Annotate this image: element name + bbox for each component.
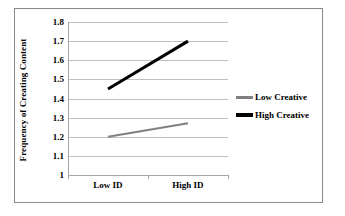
x-axis-tick-label: Low ID (68, 180, 148, 190)
y-axis-tick-label: 1.7 (30, 37, 64, 46)
plot-area (68, 22, 228, 175)
legend-label-low-creative: Low Creative (255, 92, 307, 102)
y-axis-tick-label: 1.1 (30, 152, 64, 161)
y-axis-tick-label: 1.6 (30, 56, 64, 65)
legend-swatch-low-creative-icon (236, 96, 253, 99)
y-axis-title-label: Frequency of Creating Content (18, 39, 28, 162)
y-axis-tick-label: 1.3 (30, 114, 64, 123)
series-line-low-creative (108, 123, 188, 136)
x-axis-tick (228, 175, 229, 179)
x-axis-tick-labels: Low IDHigh ID (68, 180, 228, 194)
chart-figure: Frequency of Creating Content 1.81.71.61… (0, 0, 345, 216)
legend-label-high-creative: High Creative (255, 110, 309, 120)
y-axis-tick-label: 1.2 (30, 133, 64, 142)
legend-item-low-creative: Low Creative (236, 88, 322, 106)
y-axis-tick-label: 1.5 (30, 75, 64, 84)
y-axis-tick-label: 1.4 (30, 95, 64, 104)
legend-item-high-creative: High Creative (236, 106, 322, 124)
series-line-high-creative (108, 41, 188, 89)
x-axis-tick (68, 175, 69, 179)
x-axis-tick (148, 175, 149, 179)
y-axis-tick-label: 1 (30, 171, 64, 180)
x-axis-tick-label: High ID (148, 180, 228, 190)
series-lines (68, 22, 228, 175)
y-axis-tick-labels: 1.81.71.61.51.41.31.21.11 (28, 22, 64, 175)
legend-swatch-high-creative-icon (236, 113, 253, 117)
chart-legend: Low Creative High Creative (236, 88, 322, 124)
y-axis-tick-label: 1.8 (30, 18, 64, 27)
